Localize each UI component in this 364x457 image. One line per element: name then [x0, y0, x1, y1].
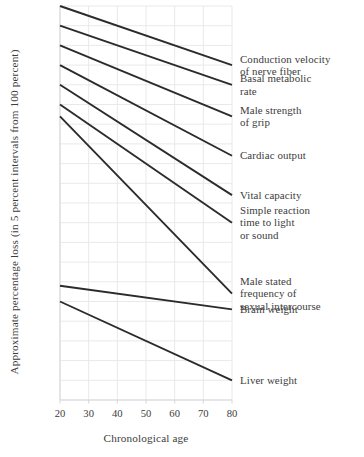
chart-figure: Approximate percentage loss (in 5 percen…	[0, 0, 364, 457]
x-tick-label: 50	[131, 408, 161, 419]
x-tick-label: 40	[102, 408, 132, 419]
x-tick-label: 80	[217, 408, 247, 419]
x-axis-title: Chronological age	[58, 432, 234, 444]
series-label-3: Cardiac output	[240, 149, 306, 162]
series-label-8: Liver weight	[240, 374, 297, 387]
x-tick-label: 60	[160, 408, 190, 419]
x-tick-label: 70	[188, 408, 218, 419]
series-label-5: Simple reaction time to light or sound	[240, 204, 310, 242]
series-label-2: Male strength of grip	[240, 104, 302, 129]
series-label-7: Brain weight	[240, 303, 298, 316]
x-tick-label: 20	[45, 408, 75, 419]
x-tick-label: 30	[74, 408, 104, 419]
series-label-1: Basal metabolic rate	[240, 72, 311, 97]
series-label-4: Vital capacity	[240, 189, 302, 202]
